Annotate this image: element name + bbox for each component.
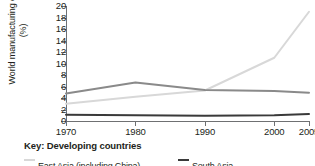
key-title: Key: Developing countries (24, 140, 315, 151)
chart-figure: World manufacturing output (%) 024681012… (0, 0, 315, 166)
key-items: East Asia (including China)South Asia (24, 155, 315, 166)
key-swatch (24, 159, 35, 161)
series-line (66, 12, 309, 104)
series-line (66, 114, 309, 116)
key-swatch (178, 159, 189, 161)
key-item: East Asia (including China) (38, 155, 140, 166)
key-item-label: South Asia (192, 161, 233, 166)
key-item-label: East Asia (including China) (38, 161, 140, 166)
chart-key: Key: Developing countries East Asia (inc… (24, 140, 315, 151)
key-item: South Asia (192, 155, 233, 166)
